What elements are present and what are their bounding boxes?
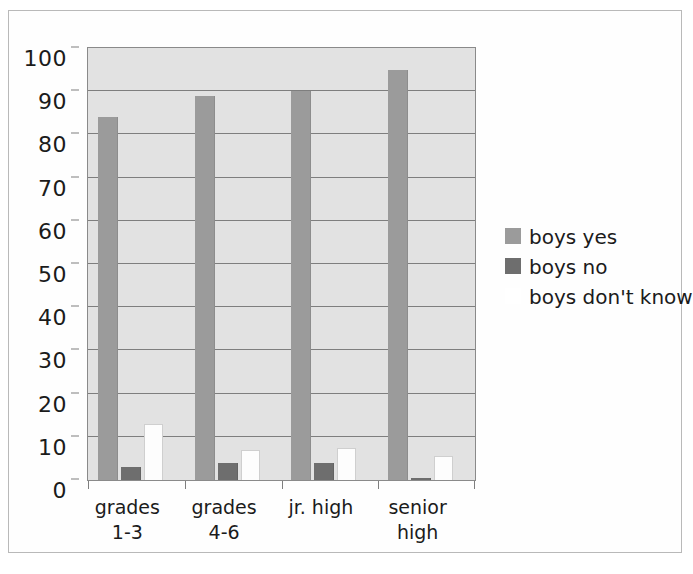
bars-layer [88, 48, 475, 480]
chart-frame: 0102030405060708090100 grades1-3grades4-… [8, 10, 682, 553]
bar [388, 70, 408, 480]
y-tick-label-90: 90 [38, 89, 67, 91]
x-axis-label-line2: 1-3 [79, 520, 176, 545]
x-axis-label-jr-high: jr. high [273, 495, 370, 520]
legend-swatch-boys-yes-icon [505, 228, 521, 244]
x-axis-label-line1: grades [95, 496, 160, 518]
y-tick-label-70: 70 [38, 176, 67, 178]
legend-label: boys yes [529, 223, 617, 251]
legend-item-boys-don-t-know[interactable]: boys don't know [505, 283, 685, 313]
legend-item-boys-no[interactable]: boys no [505, 253, 685, 283]
y-tick-label-30: 30 [38, 348, 67, 350]
y-tick-label-0: 0 [53, 478, 68, 480]
y-tick-mark-50 [71, 263, 79, 264]
bar [218, 463, 238, 480]
x-axis-label-grades-4-6: grades4-6 [176, 495, 273, 545]
bar-group [195, 48, 260, 480]
legend-item-boys-yes[interactable]: boys yes [505, 223, 685, 253]
bar [411, 478, 431, 480]
x-tick-mark [88, 481, 89, 489]
bar [434, 456, 453, 480]
x-tick-mark [185, 481, 186, 489]
x-axis-label-line1: jr. high [288, 496, 353, 518]
y-tick-label-40: 40 [38, 305, 67, 307]
chart-legend: boys yesboys noboys don't know [505, 223, 685, 313]
x-axis-label-line1: grades [192, 496, 257, 518]
x-axis-label-grades-1-3: grades1-3 [79, 495, 176, 545]
x-axis-ticks [88, 481, 476, 490]
y-axis: 0102030405060708090100 [17, 47, 79, 481]
bar [144, 424, 163, 480]
y-tick-label-10: 10 [38, 435, 67, 437]
legend-swatch-boys-no-icon [505, 258, 521, 274]
legend-swatch-boys-dont-know-icon [505, 288, 521, 304]
y-tick-mark-0 [71, 479, 79, 480]
y-tick-mark-30 [71, 349, 79, 350]
bar [98, 117, 118, 480]
x-axis-label-line1: senior [388, 496, 446, 518]
y-tick-label-50: 50 [38, 262, 67, 264]
x-axis-label-senior-high: seniorhigh [369, 495, 466, 545]
bar [121, 467, 141, 480]
bar [195, 96, 215, 480]
x-axis-label-line2: high [369, 520, 466, 545]
y-tick-label-60: 60 [38, 219, 67, 221]
x-axis-labels: grades1-3grades4-6jr. highseniorhigh [79, 495, 485, 555]
legend-label: boys don't know [529, 283, 693, 311]
legend-label: boys no [529, 253, 607, 281]
y-tick-label-80: 80 [38, 132, 67, 134]
bar-group [388, 48, 453, 480]
bar [314, 463, 334, 480]
y-tick-label-20: 20 [38, 392, 67, 394]
y-tick-mark-10 [71, 435, 79, 436]
x-tick-mark [282, 481, 283, 489]
y-tick-mark-90 [71, 90, 79, 91]
x-tick-mark [474, 481, 475, 489]
x-tick-mark [378, 481, 379, 489]
x-axis-label-line2: 4-6 [176, 520, 273, 545]
y-tick-mark-80 [71, 133, 79, 134]
y-tick-mark-60 [71, 219, 79, 220]
y-tick-mark-100 [71, 47, 79, 48]
y-tick-mark-20 [71, 392, 79, 393]
y-tick-mark-40 [71, 306, 79, 307]
bar [337, 448, 356, 480]
bar [291, 91, 311, 480]
bar-group [291, 48, 356, 480]
y-tick-label-100: 100 [24, 46, 68, 48]
y-tick-mark-70 [71, 176, 79, 177]
bar-group [98, 48, 163, 480]
bar [241, 450, 260, 480]
